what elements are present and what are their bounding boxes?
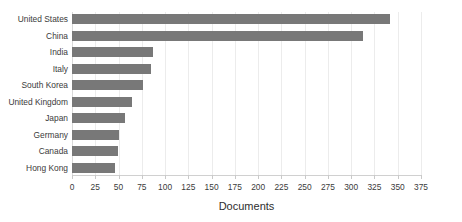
x-axis-line [72,175,421,176]
bar-row [72,146,118,156]
gridline-325 [374,12,375,175]
tickmark-175 [235,175,236,179]
tickmark-0 [72,175,73,179]
x-axis-tick-labels: 0255075100125150175200225250275300325350… [0,182,462,194]
bar-chart: United StatesChinaIndiaItalySouth KoreaU… [0,0,462,222]
tick-label-75: 75 [137,182,146,193]
tick-label-0: 0 [70,182,75,193]
category-label: Japan [2,113,68,123]
tick-label-175: 175 [228,182,242,193]
category-label: United States [2,14,68,24]
bar-row [72,130,119,140]
bar [72,47,153,57]
tick-label-375: 375 [414,182,428,193]
category-label: United Kingdom [2,97,68,107]
tick-label-350: 350 [391,182,405,193]
bar [72,80,143,90]
tickmark-50 [119,175,120,179]
bar-row [72,47,153,57]
bar [72,163,115,173]
category-label: Canada [2,146,68,156]
bar-row [72,163,115,173]
tickmark-250 [305,175,306,179]
tick-label-125: 125 [181,182,195,193]
tick-label-225: 225 [274,182,288,193]
tick-label-275: 275 [321,182,335,193]
tick-label-325: 325 [367,182,381,193]
tickmark-75 [142,175,143,179]
tick-label-300: 300 [344,182,358,193]
bar [72,31,363,41]
gridline-350 [398,12,399,175]
tick-label-50: 50 [114,182,123,193]
bar [72,146,118,156]
tick-label-150: 150 [205,182,219,193]
tickmark-350 [398,175,399,179]
bar-row [72,31,363,41]
category-label: South Korea [2,80,68,90]
tickmark-125 [188,175,189,179]
tick-label-25: 25 [91,182,100,193]
tick-label-200: 200 [251,182,265,193]
bar [72,64,151,74]
category-label: Hong Kong [2,163,68,173]
tickmark-375 [421,175,422,179]
category-label: China [2,31,68,41]
category-label: Germany [2,130,68,140]
bar-row [72,80,143,90]
x-axis-title: Documents [72,199,421,213]
bar [72,113,125,123]
tickmark-325 [374,175,375,179]
tickmark-300 [351,175,352,179]
bar [72,130,119,140]
tickmark-225 [281,175,282,179]
category-label: Italy [2,64,68,74]
tick-label-250: 250 [298,182,312,193]
gridline-375 [421,12,422,175]
bar-row [72,14,390,24]
bar-row [72,64,151,74]
category-label: India [2,47,68,57]
category-axis-labels: United StatesChinaIndiaItalySouth KoreaU… [0,12,68,175]
bar-row [72,97,132,107]
tickmark-25 [95,175,96,179]
tickmark-200 [258,175,259,179]
tickmark-275 [328,175,329,179]
tickmark-100 [165,175,166,179]
bar [72,97,132,107]
plot-area [72,12,421,175]
bar-row [72,113,125,123]
tickmark-150 [212,175,213,179]
bar [72,14,390,24]
tick-label-100: 100 [158,182,172,193]
